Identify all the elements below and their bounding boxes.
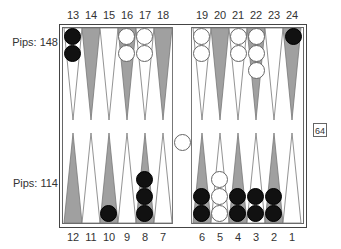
point-1[interactable] <box>283 133 301 223</box>
point-23[interactable] <box>265 28 283 120</box>
checker-black-6-1[interactable] <box>193 205 210 222</box>
point-14[interactable] <box>82 28 100 120</box>
point-20[interactable] <box>211 28 229 120</box>
checker-black-3-2[interactable] <box>247 188 264 205</box>
checker-white-5-2[interactable] <box>211 188 228 205</box>
checker-black-13-2[interactable] <box>64 45 81 62</box>
checker-white-16-2[interactable] <box>118 45 135 62</box>
checker-white-17-2[interactable] <box>136 45 153 62</box>
point-7[interactable] <box>154 133 172 223</box>
point-18[interactable] <box>154 28 172 120</box>
checker-black-4-1[interactable] <box>229 205 246 222</box>
checker-white-19-1[interactable] <box>193 28 210 45</box>
checker-white-5-3[interactable] <box>211 171 228 188</box>
checker-white-22-1[interactable] <box>248 28 265 45</box>
checker-white-16-1[interactable] <box>118 28 135 45</box>
bar[interactable] <box>172 27 192 224</box>
point-11[interactable] <box>82 133 100 223</box>
checker-white-22-3[interactable] <box>248 62 265 79</box>
checker-black-8-3[interactable] <box>136 171 153 188</box>
point-12[interactable] <box>64 133 82 223</box>
checker-black-24-1[interactable] <box>285 28 302 45</box>
checker-white-21-1[interactable] <box>230 28 247 45</box>
checker-white-21-2[interactable] <box>230 45 247 62</box>
point-15[interactable] <box>100 28 118 120</box>
checker-black-13-1[interactable] <box>64 28 81 45</box>
checker-black-6-2[interactable] <box>193 188 210 205</box>
checker-white-22-2[interactable] <box>248 45 265 62</box>
doubling-cube[interactable]: 64 <box>313 123 327 137</box>
checker-white-5-1[interactable] <box>211 205 228 222</box>
checker-white-bar[interactable] <box>174 134 191 151</box>
checker-black-2-1[interactable] <box>265 205 282 222</box>
checker-black-3-1[interactable] <box>247 205 264 222</box>
checker-white-19-2[interactable] <box>193 45 210 62</box>
point-9[interactable] <box>118 133 136 223</box>
checker-black-10-1[interactable] <box>100 205 117 222</box>
checker-black-8-2[interactable] <box>136 188 153 205</box>
checker-black-8-1[interactable] <box>136 205 153 222</box>
checker-black-4-2[interactable] <box>229 188 246 205</box>
checker-white-17-1[interactable] <box>136 28 153 45</box>
checker-black-2-2[interactable] <box>265 188 282 205</box>
